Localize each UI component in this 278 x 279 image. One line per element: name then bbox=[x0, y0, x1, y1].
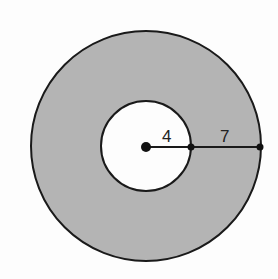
outer-segment-label: 7 bbox=[220, 127, 229, 146]
center-point bbox=[141, 142, 151, 152]
annulus-diagram: 4 7 bbox=[0, 0, 278, 279]
outer-boundary-point bbox=[257, 144, 264, 151]
inner-radius-label: 4 bbox=[162, 127, 171, 146]
inner-boundary-point bbox=[188, 144, 195, 151]
